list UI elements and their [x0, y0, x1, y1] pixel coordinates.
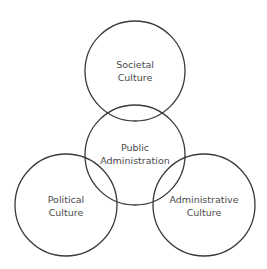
label-political-line2: Culture — [49, 207, 84, 218]
circle-administrative-culture: Administrative Culture — [153, 154, 255, 256]
label-political-line1: Political — [48, 194, 85, 205]
label-societal-line2: Culture — [118, 72, 153, 83]
label-public-line2: Administration — [100, 155, 170, 166]
label-societal-line1: Societal — [116, 59, 154, 70]
label-administrative-line1: Administrative — [169, 194, 238, 205]
circle-political-culture: Political Culture — [15, 154, 117, 256]
circle-societal-culture: Societal Culture — [85, 21, 185, 121]
circle-public-administration: Public Administration — [85, 105, 185, 205]
label-public-line1: Public — [121, 142, 149, 153]
label-administrative-line2: Culture — [187, 207, 222, 218]
venn-diagram: Societal Culture Public Administration P… — [0, 0, 267, 269]
